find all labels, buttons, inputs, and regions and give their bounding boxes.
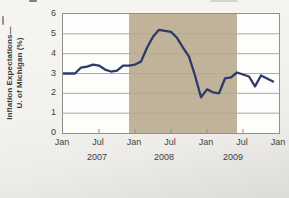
x-tick-label: Jan (121, 137, 147, 147)
y-axis-title-line1: Inflation Expectations— (5, 11, 15, 135)
plot-canvas (63, 14, 279, 133)
y-tick-label: 4 (36, 48, 56, 58)
chart: Inflation Expectations— U. of Michigan (… (0, 0, 289, 198)
y-axis-title-line2: U. of Michigan (%) (15, 11, 25, 135)
y-tick-label: 6 (36, 8, 56, 18)
photo-artifact (2, 16, 4, 25)
year-label: 2007 (80, 152, 114, 162)
x-tick-label: Jul (229, 137, 255, 147)
y-axis-title: Inflation Expectations— U. of Michigan (… (5, 11, 27, 135)
y-tick-label: 3 (36, 68, 56, 78)
y-tick-label: 1 (36, 107, 56, 117)
y-tick-label: 0 (36, 127, 56, 137)
x-tick-label: Jan (193, 137, 219, 147)
x-tick-label: Jan (49, 137, 75, 147)
year-label: 2008 (147, 152, 181, 162)
photo-artifact (29, 0, 37, 2)
plot-area (62, 13, 280, 134)
x-tick-label: Jan (265, 137, 289, 147)
x-tick-label: Jul (85, 137, 111, 147)
y-tick-label: 2 (36, 87, 56, 97)
y-tick-label: 5 (36, 28, 56, 38)
x-tick-label: Jul (157, 137, 183, 147)
year-label: 2009 (216, 152, 250, 162)
photo-artifact (210, 0, 238, 2)
